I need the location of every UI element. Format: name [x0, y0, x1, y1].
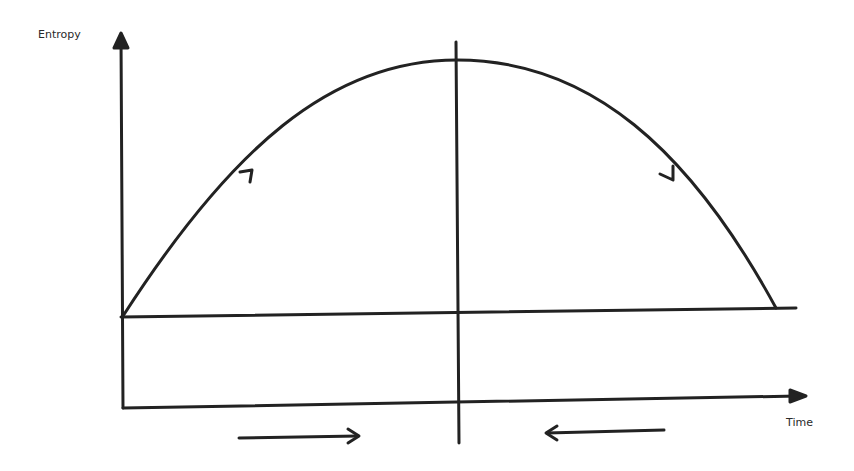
center-divider	[456, 42, 459, 443]
rising-arrow-icon	[240, 170, 252, 182]
y-axis-label: Entropy	[38, 28, 81, 41]
x-axis	[123, 396, 798, 408]
time-backward-arrow	[547, 430, 664, 433]
entropy-time-diagram	[0, 0, 854, 471]
y-axis	[121, 36, 123, 408]
x-axis-label: Time	[786, 416, 813, 429]
x-axis-arrowhead-icon	[790, 390, 806, 402]
entropy-curve	[123, 60, 776, 316]
y-axis-arrowhead-icon	[114, 33, 128, 48]
time-forward-arrow	[239, 436, 358, 438]
falling-arrow-icon	[660, 166, 673, 180]
